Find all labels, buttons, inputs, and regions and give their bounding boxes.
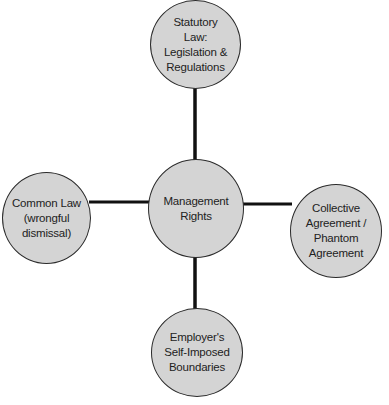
node-label: Employer's Self-Imposed Boundaries bbox=[164, 330, 229, 375]
node-management-rights: Management Rights bbox=[148, 159, 244, 258]
node-collective-agreement: Collective Agreement / Phantom Agreement bbox=[290, 184, 382, 278]
node-employer-boundaries: Employer's Self-Imposed Boundaries bbox=[151, 308, 243, 397]
node-label: Collective Agreement / Phantom Agreement bbox=[306, 201, 366, 261]
node-label: Common Law (wrongful dismissal) bbox=[12, 196, 81, 241]
node-label: Statutory Law: Legislation & Regulations bbox=[164, 15, 227, 75]
node-label: Management Rights bbox=[163, 194, 228, 224]
node-common-law: Common Law (wrongful dismissal) bbox=[2, 172, 91, 264]
node-statutory-law: Statutory Law: Legislation & Regulations bbox=[150, 0, 241, 89]
